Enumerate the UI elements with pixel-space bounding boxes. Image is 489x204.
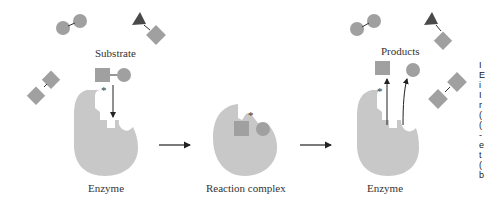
floating-molecule-squares-right <box>428 72 467 109</box>
reaction-complex-enzyme-shape <box>213 104 277 176</box>
active-site-marker-right: * <box>377 85 383 97</box>
side-char: t <box>479 150 489 160</box>
side-char: I <box>479 60 489 70</box>
floating-molecule-circles-right <box>350 14 381 36</box>
side-char: ( <box>479 120 489 130</box>
products-label: Products <box>381 45 420 57</box>
enzyme-right-shape <box>357 90 419 176</box>
enzyme-left-shape <box>74 90 138 176</box>
substrate-molecule <box>95 68 131 82</box>
floating-molecule-circles-left <box>56 14 87 35</box>
active-site-marker-left: * <box>101 84 107 96</box>
reaction-complex-label: Reaction complex <box>206 182 286 194</box>
side-char: - <box>479 130 489 140</box>
substrate-label: Substrate <box>95 47 136 59</box>
side-char: r <box>479 100 489 110</box>
side-char: e <box>479 140 489 150</box>
side-char: ( <box>479 110 489 120</box>
cropped-side-text: I E i I r ( ( - e t ( b <box>479 60 489 180</box>
side-char: ( <box>479 160 489 170</box>
enzyme-reaction-diagram: Substrate * Enzyme * Reaction complex Pr… <box>0 0 489 204</box>
side-char: I <box>479 90 489 100</box>
bound-substrate-square <box>234 121 249 136</box>
floating-molecule-squares-left <box>27 71 60 105</box>
bound-substrate-circle <box>256 122 270 136</box>
enzyme-right-label: Enzyme <box>367 182 403 194</box>
active-site-marker-complex: * <box>248 109 254 121</box>
side-char: b <box>479 170 489 180</box>
product-square <box>375 61 390 75</box>
product-circle <box>406 63 420 77</box>
side-char: E <box>479 70 489 80</box>
floating-molecule-triangle-square-left <box>132 12 166 45</box>
enzyme-left-label: Enzyme <box>88 182 124 194</box>
side-char: i <box>479 80 489 90</box>
floating-molecule-triangle-square-right <box>424 12 452 50</box>
release-arrow-circle <box>403 79 407 125</box>
